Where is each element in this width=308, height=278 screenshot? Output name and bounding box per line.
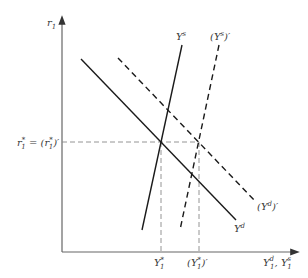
Yd-curve (81, 59, 236, 220)
islm-diagram: r1 Yd1, Ys1 r*1 = (r*1)′ Ys (Ys)′ Yd (0, 0, 308, 278)
Ys-prime-label: (Ys)′ (210, 30, 231, 42)
x-axis-label: Yd1, Ys1 (263, 255, 292, 271)
Y1-star-label: Y*1 (154, 256, 165, 271)
Yd-label: Yd (234, 222, 246, 234)
guide-lines (62, 142, 199, 252)
r-star-label: r*1 = (r*1)′ (17, 136, 60, 151)
Ys-curve (142, 45, 182, 230)
Y1-star-prime-label: (Y*1)′ (187, 256, 208, 271)
y-axis-label: r1 (47, 17, 56, 31)
Ys-prime-curve (180, 45, 219, 230)
Yd-prime-label: (Yd)′ (257, 200, 279, 212)
axes (62, 20, 295, 252)
Ys-label: Ys (176, 30, 187, 42)
Yd-prime-curve (118, 58, 256, 202)
